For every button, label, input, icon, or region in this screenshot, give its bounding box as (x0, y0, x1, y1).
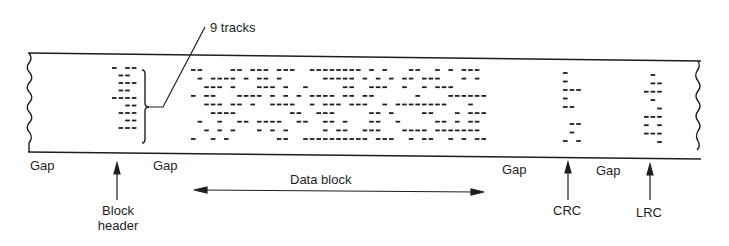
bit-dash (316, 69, 321, 71)
bit-dash (343, 130, 348, 132)
bit-dash (442, 130, 447, 132)
bit-dash (651, 116, 656, 118)
bit-dash (651, 133, 656, 135)
bit-dash (330, 138, 335, 140)
bit-dash (563, 140, 568, 142)
bit-dash (576, 123, 581, 125)
bit-dash (303, 86, 308, 88)
bit-dash (563, 81, 568, 83)
gap-label-3: Gap (502, 162, 527, 177)
bit-dash (119, 112, 124, 114)
bit-dash (468, 69, 473, 71)
bit-dash (402, 86, 407, 88)
bit-dash (409, 78, 414, 80)
bit-dash (343, 78, 348, 80)
lrc-label: LRC (636, 205, 662, 220)
bit-dash (448, 69, 453, 71)
bit-dash (125, 75, 130, 77)
bit-dash (257, 86, 262, 88)
bit-dash (442, 86, 447, 88)
bit-dash (132, 97, 137, 99)
bit-dash (369, 121, 374, 123)
bit-dash (343, 121, 348, 123)
bit-dash (119, 90, 124, 92)
bit-dash (475, 69, 480, 71)
bit-dash (382, 86, 387, 88)
bit-dash (323, 138, 328, 140)
tape-bottom-edge (28, 152, 701, 159)
bit-dash (231, 78, 236, 80)
bit-dash (657, 108, 662, 110)
bit-dash (125, 105, 130, 107)
gap-label-4: Gap (596, 163, 621, 178)
bit-dash (310, 138, 315, 140)
bit-dash (422, 138, 427, 140)
bit-dash (435, 86, 440, 88)
bit-dash (468, 95, 473, 97)
bit-dash (191, 69, 196, 71)
bit-dash (563, 106, 568, 108)
bit-dash (422, 130, 427, 132)
bit-dash (204, 104, 209, 106)
bit-dash (217, 86, 222, 88)
bit-dash (211, 95, 216, 97)
bit-dash (349, 69, 354, 71)
bit-dash (570, 106, 575, 108)
bit-dash (376, 138, 381, 140)
bit-dash (651, 74, 656, 76)
bit-dash (224, 78, 229, 80)
bit-dash (323, 121, 328, 123)
bit-dash (336, 104, 341, 106)
bit-dash (657, 116, 662, 118)
bit-dash (435, 130, 440, 132)
bit-dash (376, 112, 381, 114)
bit-dash (402, 104, 407, 106)
bit-dash (112, 67, 117, 69)
bit-dash (336, 69, 341, 71)
bit-dash (310, 69, 315, 71)
bit-dash (475, 138, 480, 140)
bit-dash (237, 69, 242, 71)
block-header-label-line2: header (92, 218, 144, 233)
bit-dash (204, 95, 209, 97)
bit-dash (349, 86, 354, 88)
bit-dash (336, 138, 341, 140)
bit-dash (264, 86, 269, 88)
bit-dash (211, 138, 216, 140)
bit-dash (389, 78, 394, 80)
arrows (114, 162, 653, 200)
bit-dash (475, 78, 480, 80)
data-block-left-arrowhead-icon (194, 187, 207, 193)
bit-dash (237, 95, 242, 97)
bit-dash (204, 130, 209, 132)
bit-dash (448, 130, 453, 132)
bit-dash (356, 69, 361, 71)
bit-dash (462, 95, 467, 97)
bit-dash (363, 130, 368, 132)
bit-dash (125, 82, 130, 84)
bit-dash (422, 86, 427, 88)
bit-dash (250, 69, 255, 71)
bit-dash (283, 69, 288, 71)
bit-dash (250, 95, 255, 97)
bit-dash (475, 112, 480, 114)
bit-dash (264, 69, 269, 71)
bit-dash (290, 69, 295, 71)
bit-dash (475, 130, 480, 132)
bit-dash (382, 138, 387, 140)
tracks-leader-line (149, 27, 205, 107)
bit-dash (125, 67, 130, 69)
bit-dash (396, 104, 401, 106)
bit-dash (468, 104, 473, 106)
bit-dash (323, 130, 328, 132)
bit-dash (644, 133, 649, 135)
bit-dash (468, 121, 473, 123)
bit-dash (211, 86, 216, 88)
bit-dash (651, 91, 656, 93)
bit-dash (125, 120, 130, 122)
bit-dash (224, 112, 229, 114)
bit-dash (316, 95, 321, 97)
bit-dash (369, 86, 374, 88)
bit-dash (462, 69, 467, 71)
lrc-bits (644, 74, 662, 143)
